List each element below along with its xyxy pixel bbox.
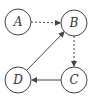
node-a-label: A: [13, 15, 23, 29]
edge-d-to-b: [27, 32, 64, 70]
node-a: A: [5, 9, 31, 35]
node-d-label: D: [12, 73, 23, 87]
node-d: D: [5, 67, 31, 93]
edge-a-to-b: [31, 22, 60, 23]
node-c: C: [61, 67, 87, 93]
node-b: B: [61, 10, 87, 36]
node-b-label: B: [69, 16, 79, 30]
directed-graph: A B C D: [0, 0, 91, 96]
node-c-label: C: [69, 73, 78, 87]
